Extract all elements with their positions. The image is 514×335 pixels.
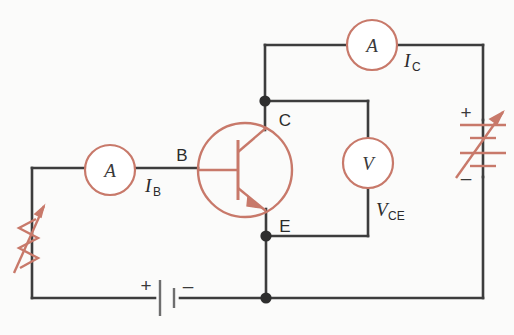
collector-current-subscript: C: [412, 60, 421, 74]
rheostat-arrow-head: [35, 206, 44, 217]
collector-supply-minus-sign: –: [461, 167, 472, 188]
collector-terminal-label: C: [279, 111, 291, 130]
supply-arrow-head: [490, 112, 503, 124]
transistor-collector-lead: [238, 128, 266, 152]
base-ammeter-label: A: [102, 160, 116, 181]
bottom-rail-node-dot: [260, 292, 271, 303]
base-battery: [160, 280, 174, 316]
transistor-emitter-arrow: [247, 196, 262, 208]
emitter-node-dot: [260, 230, 271, 241]
npn-transistor: [198, 123, 292, 217]
ce-voltage-subscript: CE: [388, 209, 405, 223]
collector-node-dot: [259, 95, 270, 106]
emitter-terminal-label: E: [279, 217, 290, 236]
circuit-diagram-figure: A A V B C E I B I C V CE + – + –: [0, 0, 514, 335]
circuit-schematic-svg: A A V B C E I B I C V CE + – + –: [0, 0, 514, 335]
base-current-label: I B: [144, 175, 161, 199]
ce-voltage-label: V CE: [376, 199, 405, 223]
base-current-subscript: B: [153, 185, 161, 199]
base-battery-minus-sign: –: [183, 275, 194, 296]
collector-ammeter-label: A: [364, 35, 378, 56]
base-terminal-label: B: [176, 146, 187, 165]
base-battery-plus-sign: +: [140, 275, 151, 296]
meter-group: [85, 20, 397, 195]
base-current-symbol: I: [144, 175, 153, 196]
collector-current-symbol: I: [403, 50, 412, 71]
collector-supply-plus-sign: +: [460, 102, 471, 123]
collector-current-label: I C: [403, 50, 421, 74]
variable-resistor: [14, 206, 44, 273]
